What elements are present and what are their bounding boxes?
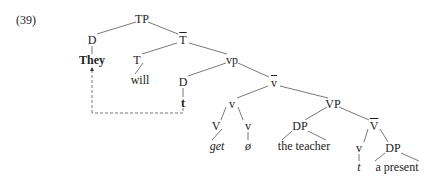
tree-node-v1: V xyxy=(212,120,221,132)
tree-node-teacher: the teacher xyxy=(278,140,330,152)
tree-node-get: get xyxy=(210,140,225,152)
tree-node-vbar: v xyxy=(271,77,277,89)
tree-node-v3: v xyxy=(356,142,362,154)
tree-node-vbar: V xyxy=(370,120,379,132)
tree-node-v1: v xyxy=(229,98,235,110)
tree-node-vp: VP xyxy=(325,98,340,110)
tree-node-they: They xyxy=(79,54,105,66)
tree-node-dp2: DP xyxy=(385,142,400,154)
tree-node-present: a present xyxy=(376,161,419,173)
tree-node-t2: t xyxy=(357,161,360,173)
tree-node-t: T xyxy=(133,54,140,66)
tree-edges xyxy=(0,0,428,182)
tree-node-t1: t xyxy=(181,97,185,109)
tree-node-d1: D xyxy=(88,34,97,46)
tree-node-will: will xyxy=(131,74,150,86)
tree-node-d2: D xyxy=(179,76,188,88)
tree-node-v2: v xyxy=(245,120,251,132)
tree-node-tp: TP xyxy=(135,13,149,25)
tree-node-tbar: T xyxy=(179,34,186,46)
syntax-tree-diagram: (39) TPDTheyTTwillvpDtvvVgetvøVPDPthe te… xyxy=(0,0,428,182)
tree-node-vp: vp xyxy=(226,54,238,66)
tree-node-null: ø xyxy=(245,140,251,152)
tree-node-dp1: DP xyxy=(292,120,307,132)
